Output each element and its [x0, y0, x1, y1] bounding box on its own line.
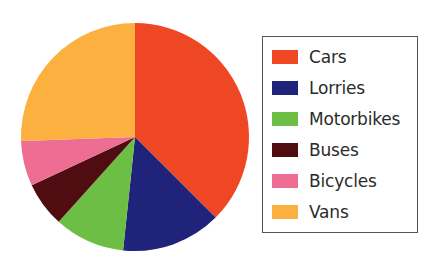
- legend-label-cars: Cars: [309, 49, 346, 66]
- legend-label-bicycles: Bicycles: [309, 173, 377, 190]
- legend-item-motorbikes[interactable]: Motorbikes: [272, 104, 417, 135]
- legend-label-lorries: Lorries: [309, 80, 365, 97]
- legend-swatch-bicycles: [272, 174, 298, 188]
- pie-chart: Cars Lorries Motorbikes Buses Bicycles V…: [0, 0, 447, 263]
- pie-slice-vans[interactable]: [21, 23, 135, 141]
- legend-label-vans: Vans: [309, 204, 349, 221]
- legend-item-cars[interactable]: Cars: [272, 42, 417, 73]
- legend-swatch-cars: [272, 50, 298, 64]
- legend-item-lorries[interactable]: Lorries: [272, 73, 417, 104]
- legend-item-buses[interactable]: Buses: [272, 135, 417, 166]
- legend-item-bicycles[interactable]: Bicycles: [272, 166, 417, 197]
- pie-slice-group: [21, 23, 249, 251]
- legend-item-vans[interactable]: Vans: [272, 197, 417, 228]
- legend-label-buses: Buses: [309, 142, 359, 159]
- legend-swatch-vans: [272, 205, 298, 219]
- legend-swatch-buses: [272, 143, 298, 157]
- legend-swatch-motorbikes: [272, 112, 298, 126]
- legend-label-motorbikes: Motorbikes: [309, 111, 400, 128]
- chart-legend: Cars Lorries Motorbikes Buses Bicycles V…: [262, 36, 418, 233]
- legend-swatch-lorries: [272, 81, 298, 95]
